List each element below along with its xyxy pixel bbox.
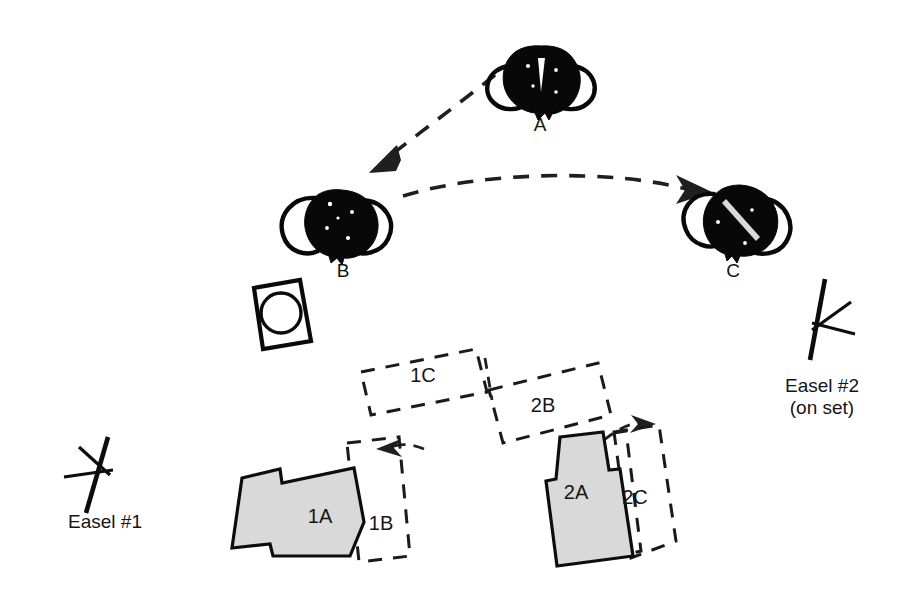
blocking-diagram: A B C xyxy=(0,0,904,595)
person-c-label: C xyxy=(726,260,740,281)
person-a-figure: A xyxy=(487,46,595,135)
person-c-figure: C xyxy=(684,185,791,281)
person-b-figure: B xyxy=(282,190,391,281)
shape-2c-label: 2C xyxy=(622,486,648,508)
easel-1-icon xyxy=(64,437,113,513)
shape-2a-label: 2A xyxy=(564,481,589,503)
easel-1-label: Easel #1 xyxy=(68,511,142,532)
easel-2-label: Easel #2 xyxy=(785,375,859,396)
easel-2-icon xyxy=(810,279,855,360)
arrow-b-to-c xyxy=(403,175,712,204)
easel-2-sublabel: (on set) xyxy=(790,397,854,418)
shape-1a-label: 1A xyxy=(308,505,333,527)
person-a-label: A xyxy=(534,114,547,135)
shape-2a: 2A xyxy=(546,432,633,566)
diagram-canvas: A B C xyxy=(0,0,904,595)
camera-monitor xyxy=(254,280,311,349)
shape-1c-label: 1C xyxy=(410,364,436,386)
shape-2b-label: 2B xyxy=(531,394,555,416)
shape-1b-label: 1B xyxy=(369,512,393,534)
arrow-a-to-b xyxy=(369,75,495,173)
person-b-label: B xyxy=(337,260,350,281)
shape-1a: 1A xyxy=(232,468,364,556)
